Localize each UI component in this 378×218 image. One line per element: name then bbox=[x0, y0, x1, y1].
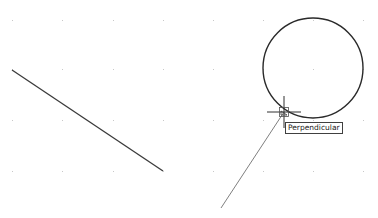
grid-dots bbox=[12, 20, 364, 172]
drawn-circle[interactable] bbox=[263, 18, 363, 118]
drawn-line[interactable] bbox=[12, 70, 163, 171]
osnap-tooltip: Perpendicular bbox=[285, 122, 343, 134]
drawing-area[interactable] bbox=[0, 0, 378, 218]
drawing-canvas[interactable]: Perpendicular bbox=[0, 0, 378, 218]
rubber-band-line bbox=[221, 112, 284, 208]
